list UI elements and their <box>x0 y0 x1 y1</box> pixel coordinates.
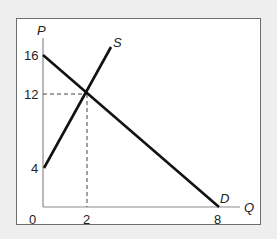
y-tick-4: 4 <box>31 161 38 176</box>
x-tick-8: 8 <box>214 212 221 227</box>
supply-label: S <box>113 35 122 50</box>
origin-label: 0 <box>29 212 36 227</box>
y-tick-12: 12 <box>24 87 38 102</box>
x-tick-2: 2 <box>83 212 90 227</box>
supply-demand-chart: P Q 0 16 12 4 2 8 S D <box>0 0 277 239</box>
demand-curve <box>43 55 219 207</box>
y-axis-label: P <box>37 23 46 38</box>
x-axis-label: Q <box>244 200 254 215</box>
y-tick-16: 16 <box>24 48 38 63</box>
demand-label: D <box>220 191 229 206</box>
